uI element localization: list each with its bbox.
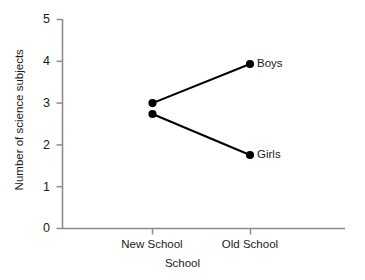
y-axis-title: Number of science subjects bbox=[14, 49, 26, 190]
y-axis-ticks bbox=[57, 20, 63, 229]
y-axis-title-container: Number of science subjects bbox=[0, 0, 40, 240]
x-axis-ticks bbox=[153, 229, 251, 235]
x-axis-title: School bbox=[0, 258, 365, 270]
data-point-boys-new-school bbox=[148, 99, 156, 107]
series-girls-line bbox=[153, 114, 251, 155]
series-label-girls: Girls bbox=[257, 149, 281, 161]
series-label-boys: Boys bbox=[257, 58, 283, 70]
x-tick-label-new-school: New School bbox=[107, 239, 197, 251]
series-boys-line bbox=[153, 64, 251, 103]
line-chart: 5 4 3 2 1 0 New School Old School Boys G… bbox=[0, 0, 365, 280]
data-point-girls-old-school bbox=[246, 151, 254, 159]
data-point-girls-new-school bbox=[148, 110, 156, 118]
series-girls bbox=[148, 110, 254, 159]
data-point-boys-old-school bbox=[246, 60, 254, 68]
series-boys bbox=[148, 60, 254, 107]
x-tick-label-old-school: Old School bbox=[205, 239, 295, 251]
